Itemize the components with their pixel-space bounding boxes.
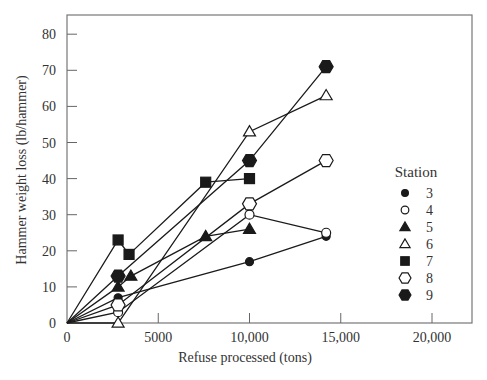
open-circle-marker-icon [245, 210, 254, 219]
filled-square-marker-icon [124, 249, 134, 259]
legend-title: Station [395, 164, 438, 180]
filled-triangle-marker-icon [400, 222, 410, 231]
filled-square-marker-icon [401, 257, 410, 266]
legend-item-label: 4 [426, 203, 433, 218]
filled-hexagon-marker-icon [399, 290, 411, 300]
series-line-station-7 [67, 179, 250, 323]
x-tick-label: 15,000 [322, 330, 361, 345]
x-axis-label: Refuse processed (tons) [178, 350, 312, 366]
open-triangle-marker-icon [244, 126, 256, 136]
chart: 01020304050607080 0500010,00015,00020,00… [0, 0, 487, 380]
legend-item-label: 8 [426, 271, 433, 286]
filled-hexagon-marker-icon [111, 270, 125, 282]
filled-hexagon-marker-icon [319, 61, 333, 73]
x-tick-label: 0 [64, 330, 71, 345]
legend-item-label: 3 [426, 186, 433, 201]
filled-square-marker-icon [245, 174, 255, 184]
open-triangle-marker-icon [112, 317, 124, 327]
series-line-station-3 [67, 236, 326, 323]
legend: Station 3456789 [395, 164, 438, 303]
open-circle-marker-icon [401, 206, 409, 214]
legend-item-label: 7 [426, 254, 433, 269]
y-tick-label: 10 [42, 280, 56, 295]
legend-item-label: 5 [426, 220, 433, 235]
y-tick-label: 40 [42, 172, 56, 187]
series-line-station-6 [67, 96, 326, 323]
y-tick-label: 20 [42, 244, 56, 259]
filled-circle-marker-icon [402, 190, 409, 197]
y-tick-label: 70 [42, 63, 56, 78]
legend-item-label: 6 [426, 237, 433, 252]
filled-triangle-marker-icon [125, 270, 137, 280]
y-tick-label: 30 [42, 208, 56, 223]
y-axis: 01020304050607080 [42, 27, 77, 331]
series-lines [67, 67, 326, 323]
filled-triangle-marker-icon [244, 223, 256, 233]
filled-hexagon-marker-icon [243, 155, 257, 167]
y-tick-label: 50 [42, 136, 56, 151]
filled-square-marker-icon [113, 235, 123, 245]
series-line-station-9 [67, 67, 326, 323]
series-markers [111, 61, 333, 328]
open-hexagon-marker-icon [243, 198, 257, 210]
x-tick-label: 20,000 [413, 330, 452, 345]
open-triangle-marker-icon [320, 90, 332, 100]
x-tick-label: 10,000 [230, 330, 269, 345]
filled-circle-marker-icon [246, 258, 254, 266]
filled-square-marker-icon [201, 177, 211, 187]
open-triangle-marker-icon [400, 239, 410, 248]
open-hexagon-marker-icon [111, 299, 125, 311]
series-line-station-4 [67, 215, 326, 323]
legend-item-label: 9 [426, 288, 433, 303]
open-circle-marker-icon [322, 228, 331, 237]
x-tick-label: 5000 [144, 330, 172, 345]
open-hexagon-marker-icon [399, 273, 411, 283]
y-tick-label: 80 [42, 27, 56, 42]
y-tick-label: 60 [42, 99, 56, 114]
y-axis-label: Hammer weight loss (lb/hammer) [14, 75, 30, 265]
open-hexagon-marker-icon [319, 155, 333, 167]
y-tick-label: 0 [49, 316, 56, 331]
